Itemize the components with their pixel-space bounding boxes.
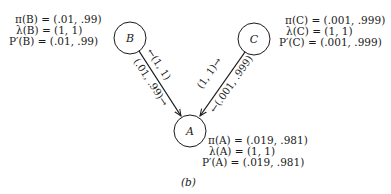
node-a-posterior: P′(A) = (.019, .981): [202, 157, 308, 168]
node-c: C: [238, 23, 270, 55]
node-a-values: π(A) = (.019, .981) λ(A) = (1, 1) P′(A) …: [202, 135, 308, 168]
node-b-label: B: [125, 32, 134, 45]
node-b-posterior: P′(B) = (.01, .99): [9, 36, 102, 47]
node-c-label: C: [250, 33, 259, 46]
edge-c-to-a: (1, 1)→ ←(.001, .999): [195, 52, 255, 116]
node-b: B: [114, 22, 146, 54]
edge-c-a-lambda-message: (1, 1)→: [195, 55, 225, 91]
figure-caption: (b): [181, 176, 196, 188]
node-a-label: A: [185, 125, 194, 138]
node-c-posterior: P′(C) = (.001, .999): [279, 37, 385, 48]
node-b-values: π(B) = (.01, .99) λ(B) = (1, 1) P′(B) = …: [9, 14, 102, 47]
node-c-values: π(C) = (.001, .999) λ(C) = (1, 1) P′(C) …: [279, 15, 385, 48]
edge-b-to-a: ←(1, 1) (.01, .99)→: [132, 46, 181, 116]
